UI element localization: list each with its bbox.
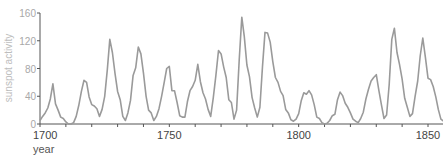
y-axis: 04080120160 sunspot activity xyxy=(3,8,40,130)
y-tick-label: 80 xyxy=(25,64,37,75)
y-tick-label: 160 xyxy=(19,8,36,19)
x-tick-label: 1800 xyxy=(286,129,310,141)
y-axis-label: sunspot activity xyxy=(3,34,14,102)
x-tick-label: 1750 xyxy=(157,129,181,141)
x-axis: 1700175018001850 year xyxy=(33,124,443,155)
sunspot-line-chart: 04080120160 sunspot activity 17001750180… xyxy=(0,0,443,158)
y-tick-label: 120 xyxy=(19,36,36,47)
x-tick-label: 1700 xyxy=(33,129,57,141)
x-axis-label: year xyxy=(33,143,55,155)
y-tick-label: 40 xyxy=(25,91,37,102)
y-ticks: 04080120160 xyxy=(19,8,40,130)
x-tick-label: 1850 xyxy=(416,129,440,141)
sunspot-series-line xyxy=(40,17,443,124)
x-ticks: 1700175018001850 xyxy=(33,124,440,141)
